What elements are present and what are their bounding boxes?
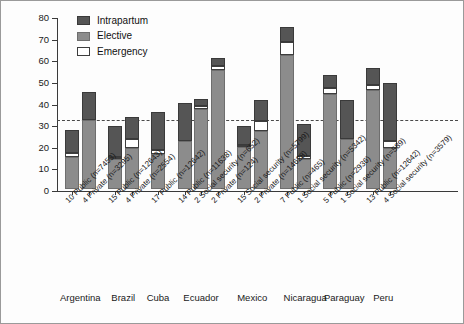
- legend-item-emergency: Emergency: [77, 46, 148, 57]
- y-tick-mark: [52, 126, 57, 127]
- y-tick-mark: [52, 105, 57, 106]
- y-tick-mark: [52, 61, 57, 62]
- legend-label-intrapartum: Intrapartum: [97, 16, 148, 26]
- y-tick-mark: [52, 148, 57, 149]
- y-tick-label: 0: [27, 186, 49, 196]
- bar-segment-intrapartum: [151, 112, 165, 150]
- bar-stack: [65, 130, 79, 189]
- y-tick-mark: [52, 83, 57, 84]
- y-tick-mark: [52, 191, 57, 192]
- y-tick-label: 40: [27, 100, 49, 110]
- group-label-peru: Peru: [373, 292, 393, 303]
- y-tick-label: 50: [27, 78, 49, 88]
- y-tick-mark: [52, 40, 57, 41]
- group-label-brazil: Brazil: [111, 292, 135, 303]
- bar-segment-intrapartum: [383, 83, 397, 141]
- y-tick-mark: [52, 18, 57, 19]
- y-tick-mark: [52, 169, 57, 170]
- legend-label-emergency: Emergency: [97, 47, 148, 57]
- bar-segment-intrapartum: [340, 100, 354, 139]
- group-label-cuba: Cuba: [147, 292, 170, 303]
- bar-segment-intrapartum: [65, 130, 79, 154]
- legend-swatch-emergency: [77, 47, 90, 56]
- bar-segment-intrapartum: [82, 92, 96, 120]
- y-tick-label: 20: [27, 143, 49, 153]
- bar-segment-intrapartum: [178, 103, 192, 142]
- legend-swatch-elective: [77, 32, 90, 41]
- y-axis-line: [57, 18, 58, 192]
- bar-segment-intrapartum: [125, 117, 139, 140]
- legend-item-elective: Elective: [77, 31, 148, 42]
- group-label-ecuador: Ecuador: [183, 292, 218, 303]
- y-tick-label: 10: [27, 164, 49, 174]
- group-label-nicaragua: Nicaragua: [284, 292, 327, 303]
- group-label-paraguay: Paraguay: [324, 292, 365, 303]
- chart-figure: 01020304050607080 10 Public (n=7453)4 Pr…: [0, 0, 464, 324]
- bar-segment-intrapartum: [211, 58, 225, 66]
- bar-segment-intrapartum: [280, 27, 294, 42]
- y-tick-label: 30: [27, 121, 49, 131]
- group-label-mexico: Mexico: [237, 292, 267, 303]
- bar-segment-emergency: [280, 42, 294, 55]
- bar-segment-emergency: [254, 121, 268, 131]
- legend-swatch-intrapartum: [77, 16, 90, 25]
- bar-segment-intrapartum: [254, 100, 268, 121]
- legend-item-intrapartum: Intrapartum: [77, 15, 148, 26]
- group-label-argentina: Argentina: [60, 292, 101, 303]
- y-tick-label: 80: [27, 13, 49, 23]
- bar-segment-intrapartum: [366, 68, 380, 85]
- bar-segment-emergency: [125, 139, 139, 148]
- legend-label-elective: Elective: [97, 31, 132, 41]
- y-tick-label: 70: [27, 35, 49, 45]
- bar-segment-intrapartum: [323, 75, 337, 88]
- chart-legend: IntrapartumElectiveEmergency: [77, 15, 148, 62]
- y-tick-label: 60: [27, 56, 49, 66]
